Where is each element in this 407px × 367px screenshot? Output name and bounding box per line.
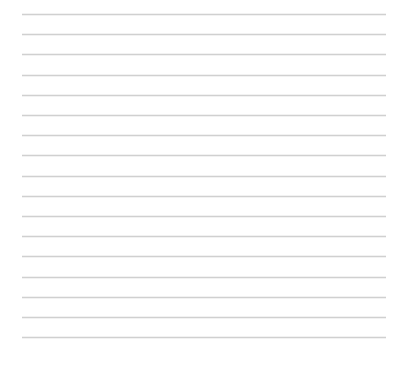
- rule-line: [22, 176, 386, 177]
- rule-line: [22, 14, 386, 15]
- rule-line: [22, 135, 386, 136]
- rule-line: [22, 236, 386, 237]
- rule-line: [22, 277, 386, 278]
- rule-line: [22, 337, 386, 338]
- ruled-lines-group: [0, 0, 407, 367]
- blank-ruled-sheet: [0, 0, 407, 367]
- rule-line: [22, 317, 386, 318]
- rule-line: [22, 95, 386, 96]
- rule-line: [22, 115, 386, 116]
- rule-line: [22, 216, 386, 217]
- rule-line: [22, 256, 386, 257]
- rule-line: [22, 297, 386, 298]
- rule-line: [22, 34, 386, 35]
- rule-line: [22, 75, 386, 76]
- rule-line: [22, 196, 386, 197]
- rule-line: [22, 54, 386, 55]
- rule-line: [22, 155, 386, 156]
